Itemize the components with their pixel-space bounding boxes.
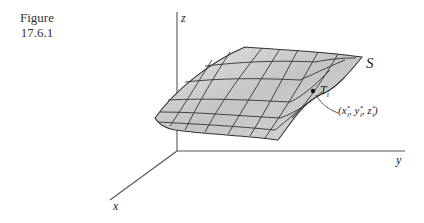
sample-point (311, 89, 315, 93)
x-axis-label: x (112, 199, 119, 213)
point-coordinates-label: (x*i, y*i, z*i) (338, 104, 378, 119)
y-axis-label: y (395, 153, 402, 167)
surface-diagram: z y x S Ti (x*i, y*i, z*i) (0, 0, 424, 223)
surface-s (155, 47, 362, 140)
z-axis-label: z (180, 11, 186, 25)
surface-label: S (366, 55, 374, 71)
x-axis (110, 151, 177, 200)
